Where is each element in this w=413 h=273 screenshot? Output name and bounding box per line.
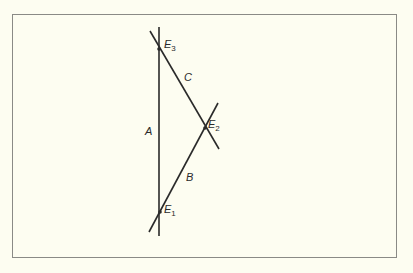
diagram-canvas — [0, 0, 413, 273]
label-e2: E2 — [208, 118, 220, 133]
label-e1: E1 — [164, 203, 176, 218]
label-e3: E3 — [164, 38, 176, 53]
label-line-a: A — [145, 125, 152, 137]
label-line-b: B — [186, 171, 193, 183]
point-e1 — [158, 210, 162, 214]
point-e2 — [203, 126, 207, 130]
point-e3 — [157, 47, 161, 51]
label-line-c: C — [184, 71, 192, 83]
